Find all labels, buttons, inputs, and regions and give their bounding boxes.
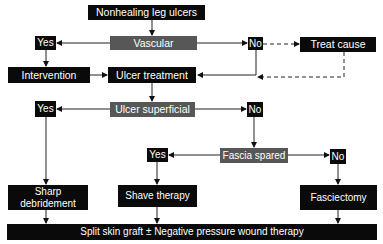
fascia-no-box: No [330,149,346,164]
start-box: Nonhealing leg ulcers [88,5,205,20]
fasciectomy-box: Fasciectomy [300,185,377,210]
sharp-debridement-line2: debridement [20,198,76,210]
superficial-no-box: No [247,102,263,117]
superficial-yes-box: Yes [35,101,56,117]
sharp-debridement-box: Sharp debridement [8,185,88,210]
vascular-no-box: No [248,37,263,50]
decision-superficial: Ulcer superficial [110,102,195,117]
sharp-debridement-line1: Sharp [35,186,62,198]
shave-therapy-box: Shave therapy [118,185,197,207]
final-outcome-bar: Split skin graft ± Negative pressure wou… [7,224,377,240]
treat-cause-box: Treat cause [300,37,376,52]
fascia-yes-box: Yes [147,148,168,162]
vascular-yes-box: Yes [35,36,56,50]
intervention-box: Intervention [8,67,90,83]
ulcer-treatment-box: Ulcer treatment [108,67,196,83]
decision-vascular: Vascular [110,36,197,50]
decision-fascia: Fascia spared [220,148,288,163]
